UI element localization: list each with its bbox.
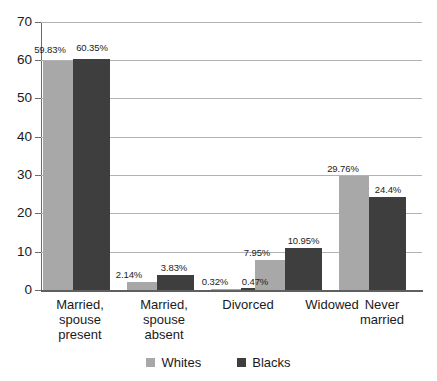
y-tick-label-10: 10 [0,245,32,259]
value-label-whites-married-spouse-absent: 2.14% [109,270,149,280]
bar-blacks-never-married[interactable] [369,197,406,290]
value-label-blacks-widowed: 10.95% [281,236,326,246]
x-category-label-never-married: Never married [340,297,424,327]
gridline-70 [41,22,422,23]
value-label-whites-divorced: 0.32% [196,277,234,287]
legend-swatch-whites-icon [146,358,155,367]
value-label-blacks-married-spouse-absent: 3.83% [153,263,195,273]
value-label-whites-widowed: 7.95% [237,248,277,258]
value-label-blacks-never-married: 24.4% [368,185,408,195]
value-label-whites-married-spouse-present: 59.83% [29,45,71,55]
legend-item-whites[interactable]: Whites [146,356,201,369]
x-category-label-married-spouse-present: Married, spouse present [38,297,122,342]
bar-chart: 70 60 50 40 30 20 10 0 [0,0,437,381]
bar-whites-married-spouse-absent[interactable] [127,282,157,290]
y-tick-label-60: 60 [0,53,32,67]
y-tick-label-40: 40 [0,130,32,144]
legend: Whites Blacks [0,356,437,369]
plot-area [41,22,422,290]
x-category-label-divorced: Divorced [206,297,290,312]
legend-label-whites: Whites [161,356,201,369]
legend-swatch-blacks-icon [237,358,246,367]
bar-blacks-married-spouse-present[interactable] [73,59,110,290]
bar-whites-never-married[interactable] [339,176,369,290]
y-tick-label-50: 50 [0,91,32,105]
y-tick-label-70: 70 [0,15,32,29]
legend-label-blacks: Blacks [252,356,290,369]
y-tick-label-30: 30 [0,168,32,182]
legend-item-blacks[interactable]: Blacks [237,356,290,369]
x-axis-line [41,290,423,292]
value-label-whites-never-married: 29.76% [320,164,366,174]
y-tick-label-20: 20 [0,206,32,220]
bar-blacks-widowed[interactable] [285,248,322,290]
value-label-blacks-married-spouse-present: 60.35% [70,43,114,53]
bar-blacks-married-spouse-absent[interactable] [157,275,194,290]
bar-whites-married-spouse-present[interactable] [43,61,73,290]
x-category-label-married-spouse-absent: Married, spouse absent [122,297,206,342]
y-tick-label-0: 0 [0,283,32,297]
value-label-blacks-divorced: 0.47% [235,277,275,287]
